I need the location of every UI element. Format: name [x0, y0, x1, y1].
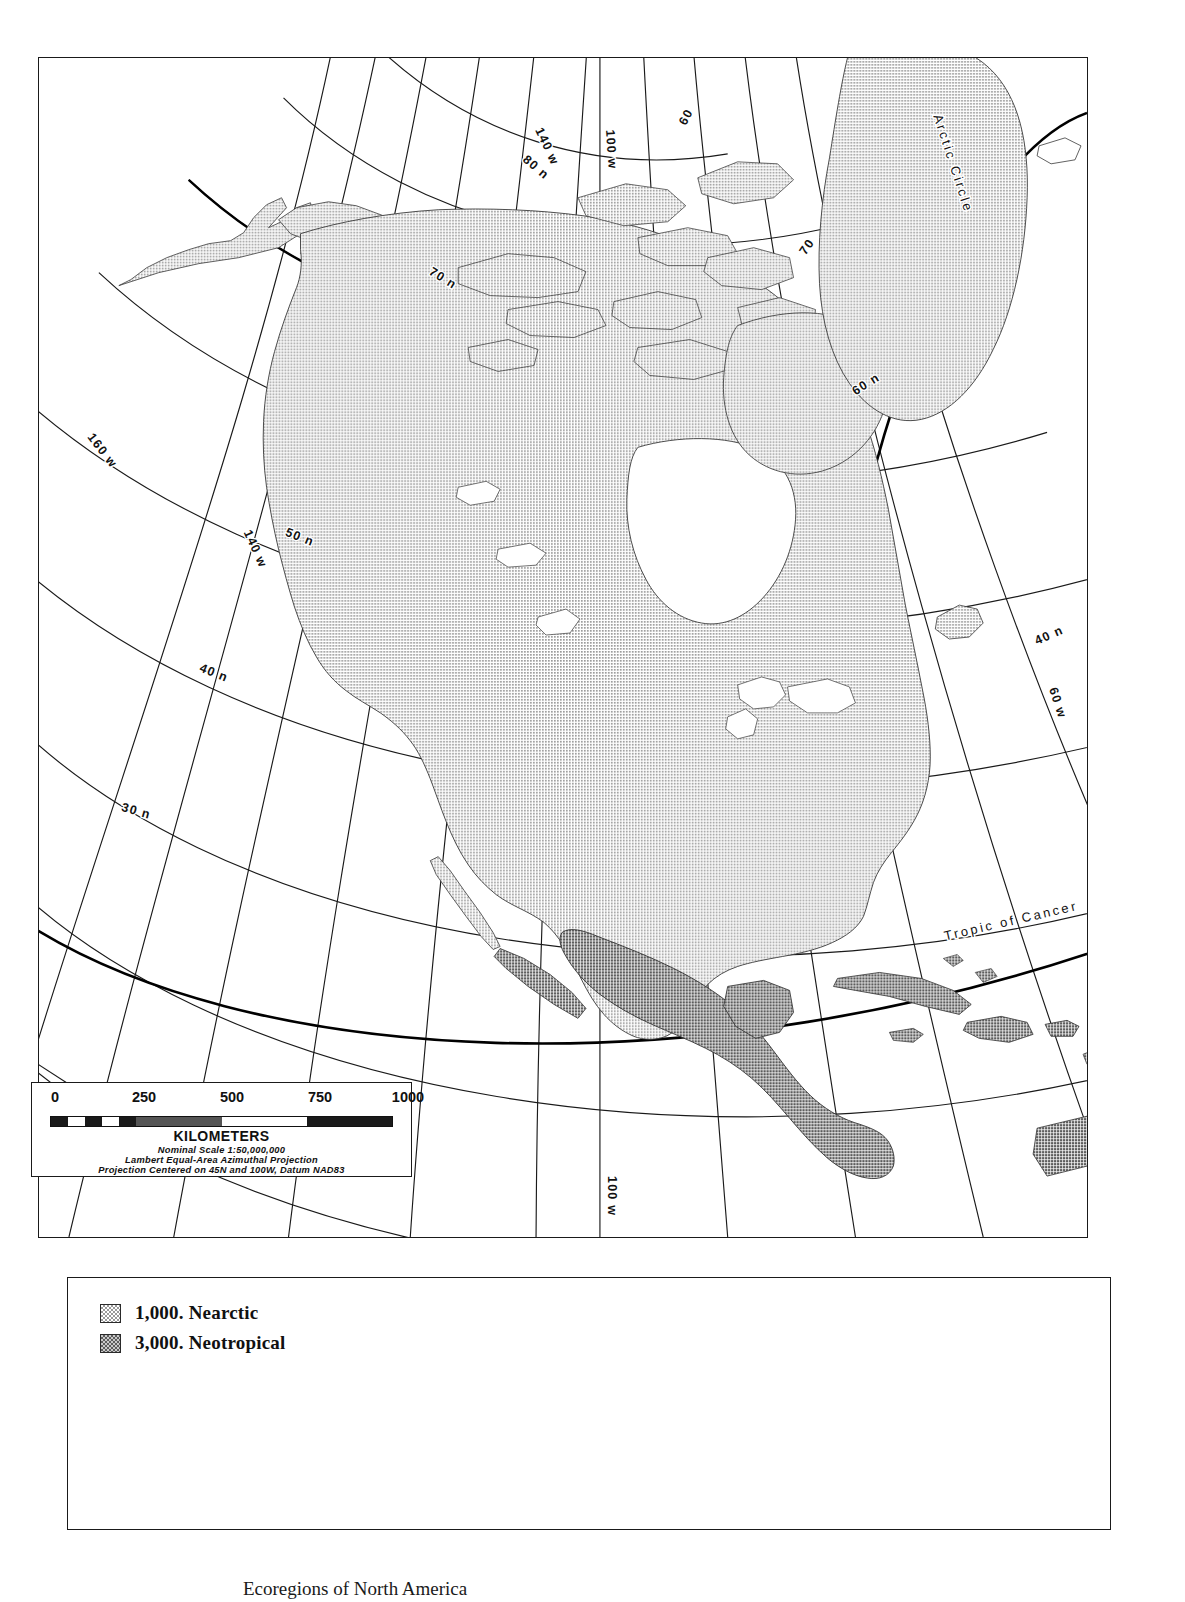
legend-swatch-neotropical — [100, 1334, 121, 1353]
legend-label-nearctic: 1,000. Nearctic — [135, 1302, 258, 1324]
grid-label-100w-bottom: 100 w — [605, 1176, 619, 1216]
grid-label-60-top: 60 — [676, 106, 696, 127]
scale-tick-1000: 1000 — [392, 1089, 424, 1105]
legend-label-neotropical: 3,000. Neotropical — [135, 1332, 285, 1354]
scale-tick-250: 250 — [132, 1089, 156, 1105]
grid-label-30n: 30 n — [120, 800, 152, 822]
scale-tick-labels: 0 250 500 750 1000 — [32, 1089, 411, 1113]
scale-bar-graphic — [50, 1116, 393, 1127]
figure-caption: Ecoregions of North America — [243, 1578, 943, 1602]
scale-projection-label: Lambert Equal-Area Azimuthal Projection — [32, 1155, 411, 1165]
legend-item-neotropical[interactable]: 3,000. Neotropical — [100, 1328, 1110, 1358]
scale-bar-box: 0 250 500 750 1000 KILOMETERS Nominal Sc… — [31, 1082, 412, 1177]
map-canvas[interactable]: 140 w 100 w 80 n 60 70 n 70 160 w 140 w … — [39, 58, 1087, 1237]
grid-label-100w-top: 100 w — [603, 129, 620, 170]
legend-box: 1,000. Nearctic 3,000. Neotropical — [67, 1277, 1111, 1530]
grid-label-60w-right: 60 w — [1046, 686, 1069, 721]
scale-box-leader-lines — [39, 1058, 69, 1084]
legend-swatch-nearctic — [100, 1304, 121, 1323]
scale-units-label: KILOMETERS — [32, 1129, 411, 1145]
scale-tick-750: 750 — [308, 1089, 332, 1105]
tropic-of-cancer-label: Tropic of Cancer — [943, 898, 1080, 943]
scale-tick-500: 500 — [220, 1089, 244, 1105]
grid-label-40n-right: 40 n — [1033, 623, 1066, 648]
scale-datum-label: Projection Centered on 45N and 100W, Dat… — [32, 1165, 411, 1175]
legend-item-nearctic[interactable]: 1,000. Nearctic — [100, 1298, 1110, 1328]
scale-nominal-label: Nominal Scale 1:50,000,000 — [32, 1145, 411, 1155]
map-frame: 140 w 100 w 80 n 60 70 n 70 160 w 140 w … — [38, 57, 1088, 1238]
grid-label-70-right: 70 — [797, 236, 818, 257]
region-neotropical[interactable] — [494, 930, 1087, 1179]
scale-tick-0: 0 — [51, 1089, 59, 1105]
grid-label-140w-left: 140 w — [241, 528, 270, 570]
grid-label-40n-left: 40 n — [198, 661, 231, 685]
